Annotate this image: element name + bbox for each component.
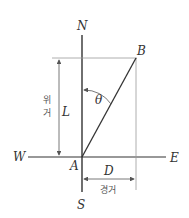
bearing-diagram: N S W E A B θ L D 위 거 경거 (0, 0, 189, 218)
departure-d-label: D (103, 164, 114, 178)
point-a-label: A (69, 159, 79, 173)
theta-label: θ (95, 93, 103, 107)
north-label: N (76, 19, 88, 33)
south-label: S (77, 198, 85, 212)
latitude-korean-label-2: 거 (43, 108, 51, 118)
west-label: W (13, 150, 27, 164)
east-label: E (169, 151, 179, 165)
line-ab (82, 58, 136, 157)
departure-korean-label: 경거 (100, 184, 116, 195)
latitude-korean-label-1: 위 (43, 95, 51, 105)
point-b-label: B (136, 44, 146, 58)
latitude-l-label: L (61, 105, 70, 119)
